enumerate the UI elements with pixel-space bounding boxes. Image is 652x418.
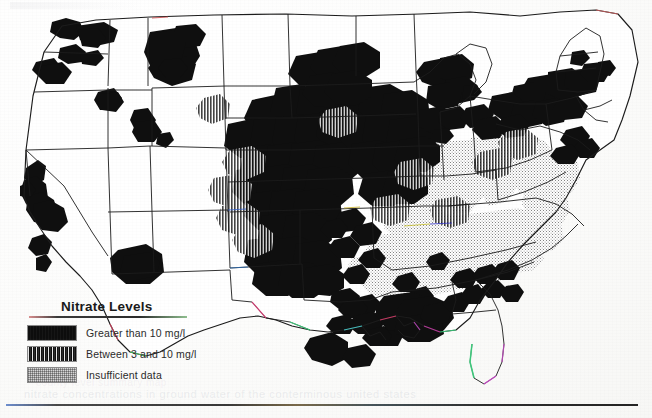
legend-label-greater-than-10: Greater than 10 mg/l (86, 327, 185, 339)
legend-swatch-solid-black (27, 325, 77, 341)
legend-swatch-dark-hatch (27, 346, 77, 362)
scanned-map-page: Nitrate Levels Greater than 10 mg/l Betw… (0, 0, 652, 418)
scan-bleedthrough-text: nitrate concentrations in ground water o… (24, 388, 604, 402)
map-legend: Nitrate Levels Greater than 10 mg/l Betw… (27, 299, 217, 386)
legend-item-greater-than-10: Greater than 10 mg/l (27, 323, 217, 343)
legend-title-underline (29, 316, 187, 318)
legend-title: Nitrate Levels (61, 299, 217, 314)
legend-label-between-3-and-10: Between 3 and 10 mg/l (86, 348, 197, 360)
page-bottom-rule (6, 404, 638, 406)
legend-item-between-3-and-10: Between 3 and 10 mg/l (27, 344, 217, 364)
